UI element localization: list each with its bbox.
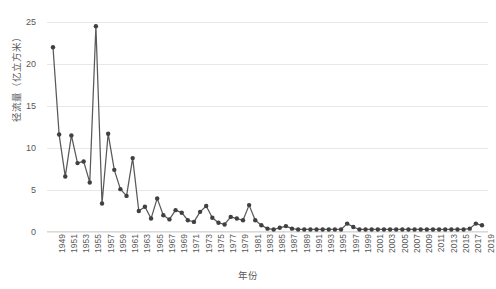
x-tick-label-2003: 2003: [387, 234, 397, 253]
data-point: [161, 213, 165, 217]
data-point: [167, 217, 171, 221]
data-point: [406, 227, 410, 231]
data-point: [278, 226, 282, 230]
data-point: [412, 227, 416, 231]
x-tick-label-1959: 1959: [118, 234, 128, 253]
plot-area: [47, 22, 488, 232]
data-point: [296, 227, 300, 231]
y-tick-label-5: 5: [31, 185, 36, 195]
x-axis-title: 年份: [0, 268, 496, 282]
y-axis-tick-labels: 0510152025: [0, 22, 42, 232]
data-point: [437, 227, 441, 231]
data-point: [443, 227, 447, 231]
data-point: [106, 132, 110, 136]
x-tick-label-2017: 2017: [473, 234, 483, 253]
data-point: [222, 222, 226, 226]
y-tick-label-25: 25: [26, 17, 36, 27]
x-tick-label-2011: 2011: [436, 234, 446, 252]
x-tick-label-1977: 1977: [228, 234, 238, 253]
data-point: [235, 216, 239, 220]
x-tick-label-1953: 1953: [81, 234, 91, 253]
data-series-runoff: [47, 22, 488, 232]
x-tick-label-1983: 1983: [265, 234, 275, 253]
x-tick-label-2015: 2015: [461, 234, 471, 253]
data-point: [327, 227, 331, 231]
data-point: [130, 156, 134, 160]
data-point: [75, 161, 79, 165]
data-point: [259, 223, 263, 227]
series-line: [53, 26, 482, 229]
x-tick-label-1951: 1951: [69, 234, 79, 253]
x-tick-label-1967: 1967: [167, 234, 177, 253]
data-point: [320, 227, 324, 231]
data-point: [425, 227, 429, 231]
x-tick-label-1975: 1975: [216, 234, 226, 253]
data-point: [455, 227, 459, 231]
gridline-y-0: [47, 232, 488, 233]
x-tick-label-1963: 1963: [142, 234, 152, 253]
data-point: [419, 227, 423, 231]
data-point: [247, 203, 251, 207]
x-tick-label-1981: 1981: [253, 234, 263, 253]
data-point: [382, 227, 386, 231]
data-point: [100, 201, 104, 205]
x-tick-label-1971: 1971: [191, 234, 201, 253]
x-tick-label-2009: 2009: [424, 234, 434, 253]
data-point: [369, 227, 373, 231]
x-tick-label-2007: 2007: [412, 234, 422, 253]
data-point: [229, 215, 233, 219]
data-point: [180, 210, 184, 214]
y-tick-label-10: 10: [26, 143, 36, 153]
x-tick-label-2019: 2019: [486, 234, 496, 253]
data-point: [431, 227, 435, 231]
runoff-line-chart: 径流量（亿立方米） 0510152025 1949195119531955195…: [0, 0, 496, 289]
y-tick-label-0: 0: [31, 227, 36, 237]
data-point: [265, 226, 269, 230]
data-point: [290, 226, 294, 230]
data-point: [216, 221, 220, 225]
data-point: [186, 218, 190, 222]
data-point: [333, 227, 337, 231]
data-point: [271, 227, 275, 231]
data-point: [468, 226, 472, 230]
x-tick-label-1973: 1973: [204, 234, 214, 253]
data-point: [357, 227, 361, 231]
x-tick-label-1991: 1991: [314, 234, 324, 253]
x-tick-label-1993: 1993: [326, 234, 336, 253]
x-tick-label-1987: 1987: [289, 234, 299, 253]
data-point: [69, 133, 73, 137]
x-tick-label-2001: 2001: [375, 234, 385, 253]
y-tick-label-15: 15: [26, 101, 36, 111]
x-tick-label-1989: 1989: [302, 234, 312, 253]
data-point: [449, 227, 453, 231]
x-tick-label-1955: 1955: [93, 234, 103, 253]
x-tick-label-1979: 1979: [240, 234, 250, 253]
data-point: [210, 216, 214, 220]
data-point: [480, 223, 484, 227]
data-point: [204, 204, 208, 208]
x-tick-label-1969: 1969: [179, 234, 189, 253]
x-tick-label-1985: 1985: [277, 234, 287, 253]
y-tick-label-20: 20: [26, 59, 36, 69]
data-point: [351, 225, 355, 229]
data-point: [137, 209, 141, 213]
data-point: [57, 132, 61, 136]
data-point: [376, 227, 380, 231]
data-point: [461, 227, 465, 231]
data-point: [253, 218, 257, 222]
data-point: [308, 227, 312, 231]
x-tick-label-2013: 2013: [449, 234, 459, 253]
data-point: [388, 227, 392, 231]
data-point: [81, 159, 85, 163]
data-point: [124, 194, 128, 198]
data-point: [143, 205, 147, 209]
x-tick-label-1999: 1999: [363, 234, 373, 253]
x-tick-label-2005: 2005: [400, 234, 410, 253]
x-tick-label-1957: 1957: [106, 234, 116, 253]
data-point: [363, 227, 367, 231]
data-point: [155, 196, 159, 200]
data-point: [118, 187, 122, 191]
x-tick-label-1997: 1997: [351, 234, 361, 253]
x-tick-label-1949: 1949: [57, 234, 67, 253]
data-point: [192, 220, 196, 224]
